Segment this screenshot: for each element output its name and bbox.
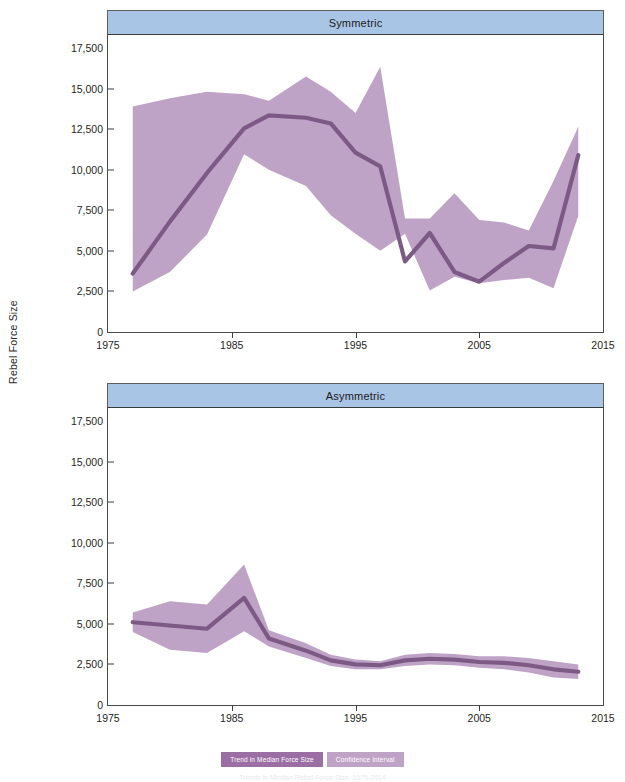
- x-axis-tick-label: 1995: [344, 712, 367, 724]
- y-axis-tick-mark: [108, 664, 114, 665]
- y-axis-tick-label: 0: [97, 699, 103, 711]
- x-axis-tick-mark: [479, 705, 480, 711]
- x-axis-tick-label: 2005: [468, 712, 491, 724]
- panel-title-symmetric: Symmetric: [329, 17, 383, 29]
- panel-title-asymmetric: Asymmetric: [326, 390, 385, 402]
- legend-label-confidence-interval: Confidence Interval: [336, 756, 395, 763]
- y-axis-tick-mark: [108, 291, 114, 292]
- y-axis-tick-label: 5,000: [77, 618, 103, 630]
- y-axis-tick-mark: [108, 542, 114, 543]
- chart-svg: [108, 35, 603, 332]
- y-axis-tick-mark: [108, 623, 114, 624]
- x-axis-tick-mark: [232, 705, 233, 711]
- x-axis-tick-label: 1985: [220, 339, 243, 351]
- x-axis-tick-label: 1985: [220, 712, 243, 724]
- y-axis-tick-label: 0: [97, 326, 103, 338]
- y-axis-label: Rebel Force Size: [7, 282, 19, 402]
- y-axis-tick-label: 17,500: [71, 42, 103, 54]
- legend-item-confidence-interval[interactable]: Confidence Interval: [327, 752, 404, 767]
- y-axis-tick-label: 10,000: [71, 164, 103, 176]
- plot-area-symmetric: 02,5005,0007,50010,00012,50015,00017,500…: [107, 34, 604, 333]
- y-axis-tick-label: 7,500: [77, 577, 103, 589]
- x-axis-tick-label: 2015: [591, 339, 614, 351]
- y-axis-tick-label: 17,500: [71, 415, 103, 427]
- y-axis-tick-label: 7,500: [77, 204, 103, 216]
- y-axis-tick-mark: [108, 169, 114, 170]
- panel-strip-symmetric: Symmetric: [107, 10, 604, 34]
- figure-caption: Trends in Median Rebel Force Size, 1975-…: [0, 774, 625, 781]
- legend-label-trend: Trend in Median Force Size: [230, 756, 314, 763]
- chart-svg: [108, 408, 603, 705]
- x-axis-tick-mark: [356, 705, 357, 711]
- legend-item-trend[interactable]: Trend in Median Force Size: [221, 752, 323, 767]
- legend: Trend in Median Force Size Confidence In…: [0, 752, 625, 767]
- panel-asymmetric: Asymmetric 02,5005,0007,50010,00012,5001…: [107, 383, 604, 706]
- y-axis-tick-mark: [108, 583, 114, 584]
- x-axis-tick-label: 1975: [96, 712, 119, 724]
- x-axis-tick-label: 1975: [96, 339, 119, 351]
- y-axis-tick-label: 12,500: [71, 496, 103, 508]
- y-axis-tick-label: 15,000: [71, 456, 103, 468]
- y-axis-tick-mark: [108, 129, 114, 130]
- panel-symmetric: Symmetric 02,5005,0007,50010,00012,50015…: [107, 10, 604, 333]
- panel-strip-asymmetric: Asymmetric: [107, 383, 604, 407]
- y-axis-tick-mark: [108, 250, 114, 251]
- y-axis-tick-mark: [108, 88, 114, 89]
- y-axis-tick-label: 5,000: [77, 245, 103, 257]
- x-axis-tick-label: 1995: [344, 339, 367, 351]
- y-axis-tick-label: 12,500: [71, 123, 103, 135]
- y-axis-tick-label: 15,000: [71, 83, 103, 95]
- x-axis-tick-mark: [232, 332, 233, 338]
- x-axis-tick-mark: [479, 332, 480, 338]
- y-axis-tick-label: 10,000: [71, 537, 103, 549]
- y-axis-tick-label: 2,500: [77, 285, 103, 297]
- plot-area-asymmetric: 02,5005,0007,50010,00012,50015,00017,500…: [107, 407, 604, 706]
- y-axis-tick-mark: [108, 210, 114, 211]
- x-axis-tick-mark: [356, 332, 357, 338]
- y-axis-tick-mark: [108, 502, 114, 503]
- x-axis-tick-label: 2005: [468, 339, 491, 351]
- figure-rebel-force-size: Rebel Force Size Symmetric 02,5005,0007,…: [0, 0, 625, 782]
- y-axis-tick-label: 2,500: [77, 658, 103, 670]
- x-axis-tick-label: 2015: [591, 712, 614, 724]
- y-axis-tick-mark: [108, 461, 114, 462]
